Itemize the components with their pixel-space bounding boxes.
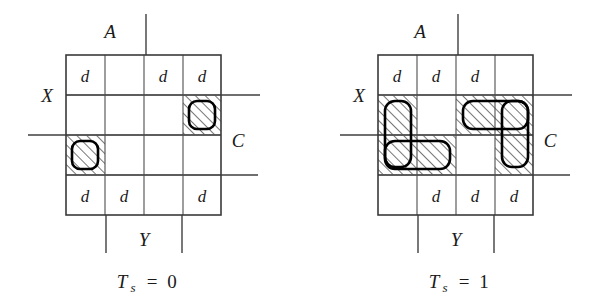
dont-care-label: d: [471, 187, 480, 206]
axis-label-a: A: [102, 21, 116, 42]
axis-label-x: X: [40, 85, 54, 106]
caption-value: 1: [479, 271, 489, 292]
axis-label-c: C: [544, 130, 557, 151]
axis-label-y: Y: [451, 229, 464, 250]
caption-equals: =: [459, 271, 470, 292]
dont-care-label: d: [393, 67, 402, 86]
caption-ts1: T s = 1: [429, 271, 489, 295]
dont-care-label: d: [159, 67, 168, 86]
caption-variable: T: [117, 271, 129, 292]
dont-care-label: d: [198, 187, 207, 206]
dont-care-label: d: [81, 67, 90, 86]
dont-care-label: d: [120, 187, 129, 206]
dont-care-label: d: [81, 187, 90, 206]
dont-care-label: d: [471, 67, 480, 86]
caption-subscript: s: [130, 280, 135, 295]
caption-value: 0: [167, 271, 177, 292]
dont-care-label: d: [432, 67, 441, 86]
dont-care-label: d: [432, 187, 441, 206]
axis-label-x: X: [352, 85, 366, 106]
dont-care-label: d: [198, 67, 207, 86]
caption-ts0: T s = 0: [117, 271, 177, 295]
kmap-figure: d d d d d d A X C Y T s = 0: [0, 0, 606, 307]
kmap-ts0: d d d d d d A X C Y T s = 0: [0, 0, 303, 307]
caption-subscript: s: [442, 280, 447, 295]
axis-label-c: C: [232, 130, 245, 151]
dont-care-label: d: [510, 187, 519, 206]
axis-label-y: Y: [139, 229, 152, 250]
caption-equals: =: [147, 271, 158, 292]
caption-variable: T: [429, 271, 441, 292]
kmap-ts1: d d d d d d A X C Y T s = 1: [303, 0, 606, 307]
axis-label-a: A: [412, 21, 426, 42]
